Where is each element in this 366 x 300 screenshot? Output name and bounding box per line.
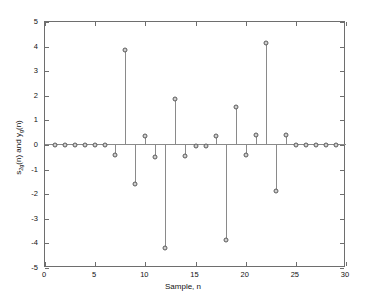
x-axis-label: Sample, n (0, 282, 366, 291)
x-tick (145, 262, 146, 266)
y-tick-label: -1 (38, 164, 45, 173)
x-tick (95, 262, 96, 266)
y-tick-label: 4 (38, 41, 42, 50)
stem-line (266, 43, 267, 145)
y-tick-right (340, 47, 344, 48)
y-tick (45, 243, 49, 244)
plot-area (44, 21, 345, 267)
y-tick-label: 3 (38, 66, 42, 75)
y-tick-label: 1 (38, 115, 42, 124)
data-point-marker (233, 104, 238, 109)
y-tick-right (340, 170, 344, 171)
data-point-marker (253, 132, 258, 137)
y-tick-label: 5 (38, 17, 42, 26)
data-point-marker (63, 143, 68, 148)
x-tick-label: 15 (190, 270, 198, 279)
y-tick-label: -4 (38, 238, 45, 247)
x-tick-label: 30 (341, 270, 349, 279)
data-point-marker (263, 40, 268, 45)
stem-line (135, 145, 136, 184)
data-point-marker (303, 143, 308, 148)
y-tick (45, 22, 49, 23)
x-tick (196, 262, 197, 266)
y-tick (45, 219, 49, 220)
data-point-marker (323, 143, 328, 148)
y-axis-label-end: (n) (14, 120, 23, 130)
y-tick-label-text: -1 (31, 164, 38, 173)
data-point-marker (103, 143, 108, 148)
stem-line (276, 145, 277, 191)
y-tick-right (340, 96, 344, 97)
stem-line (125, 50, 126, 145)
y-tick-label: -5 (38, 263, 45, 272)
y-tick-label: -2 (38, 189, 45, 198)
data-point-marker (73, 143, 78, 148)
y-tick-label-text: 1 (34, 115, 38, 124)
x-tick-label: 20 (240, 270, 248, 279)
x-tick-top (196, 22, 197, 26)
y-tick (45, 96, 49, 97)
data-point-marker (293, 143, 298, 148)
data-point-marker (243, 152, 248, 157)
data-point-marker (113, 153, 118, 158)
stem-line (236, 107, 237, 145)
y-tick-label-text: -2 (31, 189, 38, 198)
x-tick-top (145, 22, 146, 26)
y-axis-label-text: s2g(n) and yg(n) (14, 120, 23, 175)
data-point-marker (193, 144, 198, 149)
y-tick-right (340, 145, 344, 146)
data-point-marker (333, 143, 338, 148)
x-tick (346, 262, 347, 266)
data-point-marker (53, 143, 58, 148)
y-axis-label-mid: (n) and y (14, 133, 23, 165)
stem-line (175, 99, 176, 145)
data-point-marker (163, 246, 168, 251)
data-point-marker (223, 237, 228, 242)
stem-line (226, 145, 227, 240)
y-tick (45, 145, 49, 146)
y-tick-label-text: -5 (31, 263, 38, 272)
x-tick-label: 5 (92, 270, 96, 279)
y-tick-label-text: 4 (34, 41, 38, 50)
y-tick-label: 2 (38, 90, 42, 99)
data-point-marker (93, 143, 98, 148)
y-tick-right (340, 71, 344, 72)
x-tick (45, 262, 46, 266)
data-point-marker (153, 155, 158, 160)
y-axis-label-s-sub: 2g (18, 164, 24, 170)
y-tick (45, 170, 49, 171)
data-point-marker (273, 189, 278, 194)
x-tick-top (296, 22, 297, 26)
x-tick-top (346, 22, 347, 26)
y-axis-label-y-sub: g (18, 130, 24, 133)
data-point-marker (213, 133, 218, 138)
x-tick-top (95, 22, 96, 26)
y-tick-right (340, 268, 344, 269)
y-tick-right (340, 22, 344, 23)
x-tick-top (246, 22, 247, 26)
x-tick-label: 10 (140, 270, 148, 279)
figure: s2g(n) and yg(n) 051015202530 543210-1-2… (0, 0, 366, 300)
y-tick-label-text: 2 (34, 90, 38, 99)
y-tick-right (340, 243, 344, 244)
y-tick-label-text: 3 (34, 66, 38, 75)
y-tick (45, 268, 49, 269)
data-point-marker (133, 181, 138, 186)
y-axis-label: s2g(n) and yg(n) (10, 0, 26, 300)
x-tick (246, 262, 247, 266)
stem-line (165, 145, 166, 248)
y-tick-label-text: 5 (34, 17, 38, 26)
data-point-marker (313, 143, 318, 148)
y-tick-right (340, 194, 344, 195)
x-tick-label: 25 (291, 270, 299, 279)
y-tick-right (340, 219, 344, 220)
data-point-marker (143, 133, 148, 138)
data-point-marker (173, 97, 178, 102)
data-point-marker (283, 133, 288, 138)
data-point-marker (183, 154, 188, 159)
y-tick-label-text: -4 (31, 238, 38, 247)
y-tick (45, 120, 49, 121)
y-tick-label: -3 (38, 213, 45, 222)
y-tick-right (340, 120, 344, 121)
y-axis-label-s: s (14, 170, 23, 174)
